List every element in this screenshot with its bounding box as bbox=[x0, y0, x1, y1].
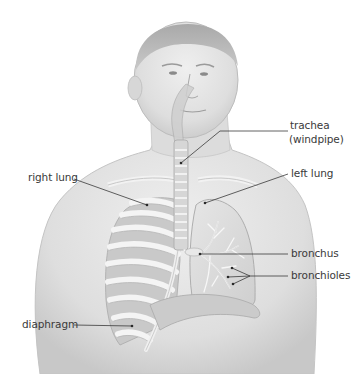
trachea bbox=[174, 140, 188, 250]
label-right-lung: right lung bbox=[28, 171, 78, 184]
label-trachea: trachea bbox=[290, 119, 330, 132]
label-bronchus: bronchus bbox=[291, 247, 339, 260]
label-diaphragm: diaphragm bbox=[22, 318, 78, 331]
label-windpipe: (windpipe) bbox=[289, 133, 344, 146]
label-left-lung: left lung bbox=[291, 167, 333, 180]
eye-right bbox=[169, 71, 177, 75]
eye-left bbox=[200, 72, 208, 76]
ear bbox=[128, 76, 142, 100]
label-bronchioles: bronchioles bbox=[291, 269, 350, 282]
